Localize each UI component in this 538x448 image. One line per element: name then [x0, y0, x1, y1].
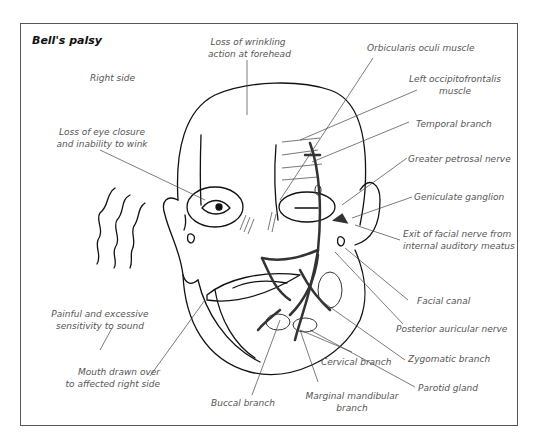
- label-orbicularis: Orbicularis oculi muscle: [367, 42, 475, 54]
- label-buccal: Buccal branch: [211, 397, 275, 409]
- label-temporal: Temporal branch: [416, 118, 492, 130]
- label-eye-closure: Loss of eye closureand inability to wink: [52, 126, 152, 150]
- label-cervical: Cervical branch: [321, 356, 391, 368]
- right-eye-ring: [187, 187, 243, 227]
- left-eye-ring: [279, 192, 335, 222]
- label-marginal: Marginal mandibularbranch: [302, 390, 402, 414]
- right-ear: [163, 198, 198, 283]
- label-sound: Painful and excessivesensitivity to soun…: [50, 308, 150, 332]
- label-posterior-auricular: Posterior auricular nerve: [396, 323, 507, 335]
- leader-lines: [100, 58, 417, 395]
- label-occipitofrontalis: Left occipitofrontalismuscle: [400, 73, 510, 97]
- sound-wave-2: [114, 195, 130, 268]
- figure-title: Bell's palsy: [32, 34, 102, 47]
- label-facial-canal: Facial canal: [417, 295, 470, 307]
- label-exit-nerve: Exit of facial nerve frominternal audito…: [403, 228, 515, 252]
- sound-wave-3: [130, 203, 145, 268]
- label-forehead: Loss of wrinklingaction at forehead: [208, 36, 288, 60]
- side-label: Right side: [90, 72, 135, 84]
- label-mouth: Mouth drawn overto affected right side: [60, 366, 160, 390]
- facial-nerve-trunk: [295, 143, 320, 340]
- label-petrosal: Greater petrosal nerve: [408, 153, 511, 165]
- label-geniculate: Geniculate ganglion: [414, 191, 504, 203]
- left-ear: [355, 183, 380, 245]
- label-parotid: Parotid gland: [418, 382, 478, 394]
- sound-wave-1: [97, 188, 115, 264]
- label-zygomatic: Zygomatic branch: [408, 353, 490, 365]
